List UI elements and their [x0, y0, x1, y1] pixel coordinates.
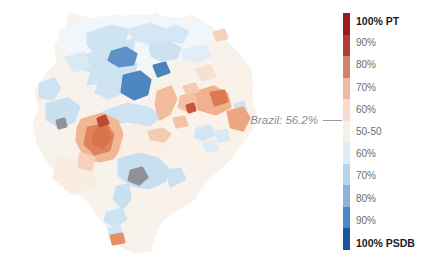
annotation-brazil: Brazil: 56.2% [250, 114, 342, 126]
legend-swatch [343, 228, 350, 250]
map-svg [0, 0, 340, 263]
map-region-gray-west-dot [57, 119, 66, 128]
legend-swatch [343, 185, 350, 207]
legend-swatch [343, 207, 350, 229]
legend: 100% PT90%80%70%60%50-5060%70%80%90%100%… [343, 13, 423, 253]
map-region-salmon-top-dot [214, 30, 227, 40]
legend-label: 90% [356, 215, 376, 227]
legend-bar [343, 13, 350, 250]
legend-swatch [343, 164, 350, 186]
legend-label: 60% [356, 148, 376, 160]
legend-label: 70% [356, 170, 376, 182]
legend-swatch [343, 13, 350, 35]
legend-swatch [343, 35, 350, 57]
map-region-orange-east-core [211, 91, 227, 105]
map-region-salmon-ne-small [184, 84, 198, 93]
map-region-orange-south-tip [111, 234, 124, 244]
map-region-pink-right-bottom [148, 189, 196, 211]
map-region-blue-east-2 [216, 130, 229, 142]
map-region-darkblue-2 [122, 72, 150, 99]
map-region-orange-tail [79, 154, 94, 170]
map-region-orange-mid-2 [174, 117, 187, 127]
map-region-blue-east-1 [195, 126, 214, 140]
map-region-darkblue-small [154, 63, 169, 76]
legend-label: 60% [356, 104, 376, 116]
annotation-leader-line [323, 120, 342, 121]
legend-swatch [343, 56, 350, 78]
legend-swatch [343, 121, 350, 143]
legend-label: 90% [356, 37, 376, 49]
legend-swatch [343, 142, 350, 164]
map-region-red-dot-east [187, 104, 195, 112]
legend-label: 100% PSDB [356, 237, 415, 249]
map-region-orange-mid-scatter [149, 129, 170, 141]
legend-label: 100% PT [356, 15, 399, 27]
legend-swatch [343, 78, 350, 100]
legend-swatch [343, 99, 350, 121]
annotation-label: Brazil: 56.2% [250, 114, 318, 126]
legend-label: 50-50 [356, 126, 382, 138]
legend-label: 80% [356, 193, 376, 205]
map-region-red-dot-cluster [98, 116, 108, 126]
legend-label: 80% [356, 59, 376, 71]
map-region-blue-east-low [204, 141, 217, 152]
legend-label: 70% [356, 82, 376, 94]
map-region-salmon-east-edge [228, 108, 249, 130]
map-region-darkblue-1 [109, 48, 136, 66]
map-region-blue-north-east [150, 42, 180, 60]
